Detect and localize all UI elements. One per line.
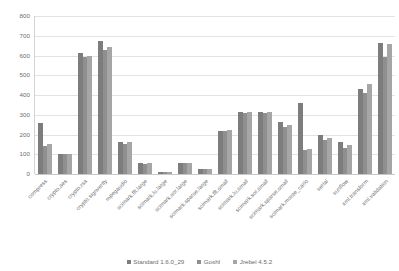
bar-group [115,16,135,174]
y-axis: 8007006005004003002001000 [0,0,34,190]
x-axis-tick-label: sunflow [331,178,349,196]
bar [147,163,151,174]
y-axis-tick-label: 700 [19,33,30,39]
bar-group [355,16,375,174]
bar [167,172,171,174]
bar [267,112,271,174]
x-axis-tick: xml.transform [355,176,375,242]
bar [307,149,311,174]
x-axis-tick: scimark.monte_carlo [295,176,315,242]
x-axis-tick: sunflow [335,176,355,242]
y-axis-tick-label: 0 [26,171,30,177]
bar-group [55,16,75,174]
bar-group [335,16,355,174]
y-axis-tick-label: 500 [19,72,30,78]
legend-label: Jrebel 4.5.2 [240,258,272,265]
gridline [35,174,395,175]
x-axis-tick: scimark.fft.small [215,176,235,242]
bar [287,125,291,174]
bar [107,47,111,174]
bar-group [235,16,255,174]
bar [47,144,51,174]
bar [207,169,211,174]
bar-group [195,16,215,174]
bar-group [275,16,295,174]
bar-group [375,16,395,174]
bars-layer [35,16,395,174]
bar [127,142,131,174]
bar-group [295,16,315,174]
bar-group [135,16,155,174]
bar [347,145,351,174]
bar-group [315,16,335,174]
bar-group [255,16,275,174]
y-axis-tick-label: 800 [19,13,30,19]
x-axis-tick: xml.validation [375,176,395,242]
legend-swatch-icon [127,260,131,264]
bar-chart: 8007006005004003002001000 compresscrypto… [0,0,399,271]
bar [67,154,71,174]
legend-label: GoshI [204,258,221,265]
bar [327,138,331,174]
bar [387,44,391,174]
x-axis-tick: crypto.aes [54,176,74,242]
y-axis-tick-label: 600 [19,53,30,59]
x-axis-category-labels: compresscrypto.aescrypto.rsacrypto.signv… [34,176,395,242]
x-axis-tick: serial [315,176,335,242]
plot-area [34,16,395,174]
legend-item[interactable]: GoshI [197,258,220,265]
y-axis-tick-label: 200 [19,132,30,138]
bar [187,163,191,174]
y-axis-tick-label: 400 [19,92,30,98]
legend-label: Standard 1.6.0_29 [133,258,184,265]
legend-item[interactable]: Standard 1.6.0_29 [127,258,184,265]
x-axis-tick: scimark.fft.large [134,176,154,242]
bar-group [175,16,195,174]
bar [227,130,231,174]
legend-swatch-icon [197,260,201,264]
x-axis-tick: crypto.signverify [94,176,114,242]
bar [247,112,251,174]
legend-item[interactable]: Jrebel 4.5.2 [233,258,272,265]
chart-legend: Standard 1.6.0_29GoshIJrebel 4.5.2 [0,258,399,265]
plot-wrapper: 8007006005004003002001000 [0,0,399,190]
bar-group [35,16,55,174]
bar-group [75,16,95,174]
bar-group [155,16,175,174]
y-axis-tick-label: 100 [19,151,30,157]
legend-swatch-icon [233,260,237,264]
y-axis-tick-label: 300 [19,112,30,118]
x-axis-tick-label: serial [315,178,329,192]
bar [367,84,371,174]
bar-group [95,16,115,174]
bar [87,56,91,175]
bar-group [215,16,235,174]
x-axis-tick: compress [34,176,54,242]
